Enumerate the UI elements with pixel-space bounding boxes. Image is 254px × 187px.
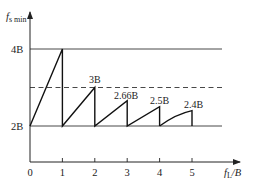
svg-text:4: 4	[157, 167, 163, 178]
svg-text:1: 1	[60, 167, 65, 178]
svg-text:5: 5	[189, 167, 194, 178]
x-axis-title: fL/B	[224, 167, 242, 180]
bandpass-sampling-chart: 4B 2B fs min 0 1 2 3 4 5 fL/B 3B 2.66B 2…	[0, 0, 254, 187]
svg-text:2: 2	[92, 167, 97, 178]
y-label-4B: 4B	[11, 44, 23, 55]
svg-text:3: 3	[125, 167, 130, 178]
fs-min-curve-last-segment	[160, 111, 192, 126]
annotation-2.5B: 2.5B	[150, 95, 170, 106]
x-ticks	[62, 158, 192, 162]
annotation-3B: 3B	[89, 74, 101, 85]
y-label-2B: 2B	[11, 121, 23, 132]
annotation-2.66B: 2.66B	[114, 90, 139, 101]
y-axis-title: fs min	[6, 11, 26, 24]
x-tick-labels: 0 1 2 3 4 5	[27, 167, 194, 178]
annotation-2.4B: 2.4B	[184, 99, 204, 110]
svg-text:0: 0	[27, 167, 32, 178]
